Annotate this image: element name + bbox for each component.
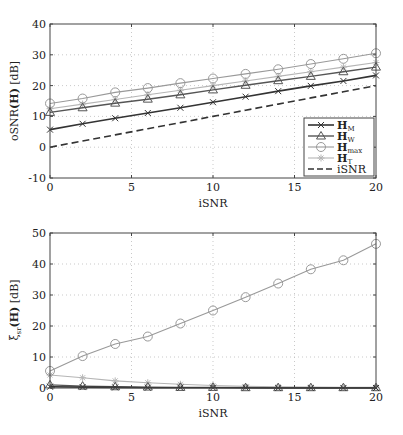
y-tick-label: 50 [32, 227, 46, 240]
noise-reduction-plot: 0510152001020304050 [32, 227, 383, 404]
y-tick-label: 10 [32, 110, 46, 123]
y-tick-label: 0 [39, 141, 46, 154]
osnr-plot: 05101520-10010203040HMHWHmaxHTiSNR [28, 18, 383, 194]
y-tick-label: 0 [39, 382, 46, 395]
x-tick-label: 0 [47, 181, 54, 194]
x-tick-label: 20 [369, 181, 383, 194]
x-tick-label: 20 [369, 391, 383, 404]
y-tick-label: 30 [32, 49, 46, 62]
y-tick-label: -10 [28, 172, 46, 185]
top-y-axis-label: oSNR(H) [dB] [8, 61, 21, 141]
figure: 05101520-10010203040HMHWHmaxHTiSNR 05101… [0, 0, 403, 435]
x-tick-label: 10 [206, 181, 220, 194]
x-tick-label: 5 [128, 391, 135, 404]
x-tick-label: 0 [47, 391, 54, 404]
svg-text:oSNR(H) [dB]: oSNR(H) [dB] [8, 61, 21, 141]
y-tick-label: 20 [32, 320, 46, 333]
legend-label: iSNR [337, 163, 367, 176]
y-tick-label: 10 [32, 351, 46, 364]
x-tick-label: 10 [206, 391, 220, 404]
y-tick-label: 20 [32, 80, 46, 93]
legend: HMHWHmaxHTiSNR [304, 118, 374, 176]
y-tick-label: 30 [32, 289, 46, 302]
y-tick-label: 40 [32, 18, 46, 31]
star-marker [318, 155, 325, 162]
top-x-axis-label: iSNR [199, 197, 229, 210]
star-marker [112, 377, 119, 384]
bottom-y-axis-label: ξsr(H) [dB] [8, 279, 23, 340]
svg-text:ξsr(H) [dB]: ξsr(H) [dB] [8, 279, 23, 340]
x-tick-label: 5 [128, 181, 135, 194]
y-tick-label: 40 [32, 258, 46, 271]
star-marker [79, 374, 86, 381]
x-tick-label: 15 [288, 391, 302, 404]
x-tick-label: 15 [288, 181, 302, 194]
bottom-x-axis-label: iSNR [199, 407, 229, 420]
